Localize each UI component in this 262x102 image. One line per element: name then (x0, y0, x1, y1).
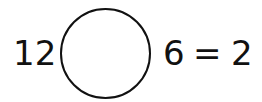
right-operand: 6 (163, 36, 185, 70)
result: 2 (231, 36, 253, 70)
operator-blank-circle[interactable] (60, 8, 151, 99)
left-operand: 12 (13, 36, 56, 70)
equals-sign: = (193, 36, 222, 70)
